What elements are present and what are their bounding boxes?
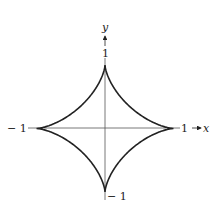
y-axis-label: y [101,21,109,34]
x-axis-label: x [203,122,210,135]
y-tick-bottom-label: − 1 [107,190,127,203]
astroid-diagram: y 1 − 1 − 1 1 x [0,0,219,210]
x-tick-right-label: 1 [181,122,188,135]
x-tick-left-label: − 1 [7,122,27,135]
y-tick-top-label: 1 [102,47,109,60]
